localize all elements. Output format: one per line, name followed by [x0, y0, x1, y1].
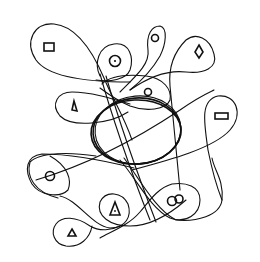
- triangle-with-dot-symbol: [110, 202, 120, 215]
- small-circle-inner-symbol: [145, 89, 152, 96]
- diagram-canvas: Hand-drawn loop diagram: [0, 0, 260, 262]
- central-ellipse: [89, 92, 183, 167]
- loop-double-circle: [100, 160, 200, 238]
- loop-top-left: [31, 24, 132, 140]
- diagram-svg: [0, 0, 260, 262]
- triangle-upper-symbol: [72, 101, 77, 111]
- diamond-symbol: [195, 45, 203, 58]
- small-circle-top-symbol: [152, 35, 159, 42]
- loop-left-circle: [27, 154, 134, 195]
- rectangle-symbol: [44, 43, 54, 51]
- rectangle-right-symbol: [215, 113, 228, 119]
- triangle-bottom-symbol: [68, 229, 76, 236]
